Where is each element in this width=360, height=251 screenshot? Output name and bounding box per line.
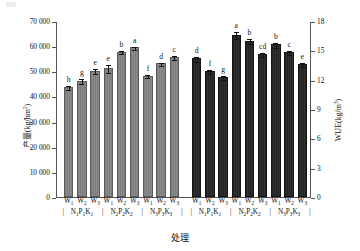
error-bar-cap bbox=[300, 67, 305, 68]
y-tick-right bbox=[311, 81, 315, 82]
x-tick-label-npk: N1P1K1 bbox=[191, 209, 229, 216]
error-bar-cap bbox=[260, 57, 265, 58]
y-tick-label-right: 0 bbox=[317, 194, 321, 201]
x-tick-label-npk: N3P3K3 bbox=[270, 209, 308, 216]
error-bar-cap bbox=[221, 76, 226, 77]
x-tick-label-w: W1 bbox=[190, 198, 204, 205]
y-tick-label-left: 70 000 bbox=[30, 18, 50, 25]
y-tick-right bbox=[311, 198, 315, 199]
error-bar-cap bbox=[234, 39, 239, 40]
significance-letter: cd bbox=[255, 43, 271, 51]
y-tick-right bbox=[311, 110, 315, 111]
y-tick-label-left: 30 000 bbox=[30, 119, 50, 126]
y-tick-left bbox=[52, 173, 56, 174]
y-tick-label-left: 0 bbox=[46, 194, 50, 201]
y-tick-label-right: 6 bbox=[317, 135, 321, 142]
x-tick-label-w: W1 bbox=[62, 198, 76, 205]
bar bbox=[117, 52, 126, 197]
significance-letter: g bbox=[215, 66, 231, 74]
error-bar-cap bbox=[159, 66, 164, 67]
significance-letter: e bbox=[294, 53, 310, 61]
bar bbox=[205, 71, 214, 197]
bar bbox=[64, 87, 73, 197]
x-tick-separator: | bbox=[102, 209, 103, 216]
bar bbox=[130, 47, 139, 197]
x-tick-label-w: W1 bbox=[229, 198, 243, 205]
significance-letter: g bbox=[74, 69, 90, 77]
y-tick-left bbox=[52, 22, 56, 23]
bar bbox=[232, 35, 241, 197]
y-tick-left bbox=[52, 123, 56, 124]
x-axis-title: 处理 bbox=[0, 231, 360, 244]
significance-letter: f bbox=[140, 65, 156, 73]
error-bar-cap bbox=[194, 57, 199, 58]
x-tick-label-npk: N1P1K1 bbox=[63, 209, 101, 216]
error-bar-cap bbox=[132, 47, 137, 48]
error-bar-cap bbox=[66, 86, 71, 87]
error-bar-cap bbox=[66, 90, 71, 91]
error-bar-cap bbox=[145, 78, 150, 79]
error-bar-cap bbox=[287, 55, 292, 56]
x-tick-label-w: W1 bbox=[141, 198, 155, 205]
y-tick-label-right: 3 bbox=[317, 165, 321, 172]
error-bar-cap bbox=[273, 48, 278, 49]
y-tick-right bbox=[311, 51, 315, 52]
significance-letter: d bbox=[153, 53, 169, 61]
bar bbox=[298, 64, 307, 197]
y-tick-left bbox=[52, 72, 56, 73]
x-tick-separator: | bbox=[309, 209, 310, 216]
y-tick-right bbox=[311, 169, 315, 170]
x-tick-separator: | bbox=[142, 209, 143, 216]
x-tick-separator: | bbox=[190, 209, 191, 216]
error-bar-cap bbox=[106, 65, 111, 66]
significance-letter: c bbox=[166, 46, 182, 54]
significance-letter: a bbox=[127, 37, 143, 45]
y-tick-label-left: 60 000 bbox=[30, 43, 50, 50]
error-bar-cap bbox=[106, 73, 111, 74]
error-bar-cap bbox=[247, 39, 252, 40]
significance-letter: b bbox=[242, 29, 258, 37]
x-tick-label-w: W2 bbox=[282, 198, 296, 205]
x-tick-label-w: W3 bbox=[128, 198, 142, 205]
bar bbox=[77, 81, 86, 197]
y-tick-left bbox=[52, 47, 56, 48]
y-tick-label-right: 15 bbox=[317, 47, 324, 54]
error-bar-cap bbox=[172, 60, 177, 61]
error-bar-cap bbox=[172, 56, 177, 57]
x-tick-separator: | bbox=[62, 209, 63, 216]
y-axis-right-title-text: WUE(kg/m3) bbox=[334, 99, 343, 142]
x-tick-label-w: W2 bbox=[154, 198, 168, 205]
x-tick-label-w: W2 bbox=[203, 198, 217, 205]
y-axis-right-title: WUE(kg/m3) bbox=[334, 99, 343, 142]
x-tick-label-w: W3 bbox=[88, 198, 102, 205]
plot-area: 010 00020 00030 00040 00050 00060 00070 … bbox=[56, 22, 311, 198]
x-tick-label-npk: N2P2K2 bbox=[103, 209, 141, 216]
bar bbox=[284, 52, 293, 197]
x-tick-separator: | bbox=[270, 209, 271, 216]
x-tick-label-npk: N2P2K2 bbox=[231, 209, 269, 216]
x-tick-label-w: W2 bbox=[243, 198, 257, 205]
error-bar-cap bbox=[93, 74, 98, 75]
error-bar-cap bbox=[145, 75, 150, 76]
y-tick-left bbox=[52, 97, 56, 98]
error-bar-cap bbox=[119, 54, 124, 55]
y-axis-left-line bbox=[56, 22, 57, 198]
x-tick-label-w: W2 bbox=[115, 198, 129, 205]
x-axis-tick-labels: W1W2W3W1W2W3W1W2W3N1P1K1N2P2K2N3P3K3||||… bbox=[56, 198, 311, 228]
error-bar-cap bbox=[79, 79, 84, 80]
bar bbox=[271, 44, 280, 197]
y-tick-label-right: 9 bbox=[317, 106, 321, 113]
error-bar-cap bbox=[221, 80, 226, 81]
error-bar-cap bbox=[300, 63, 305, 64]
chart-root: 产量(kg/hm2) WUE(kg/m3) 处理 010 00020 00030… bbox=[0, 0, 360, 251]
significance-letter: e bbox=[100, 55, 116, 63]
y-tick-label-right: 18 bbox=[317, 18, 324, 25]
y-tick-label-left: 10 000 bbox=[30, 169, 50, 176]
x-tick-label-w: W3 bbox=[256, 198, 270, 205]
significance-letter: h bbox=[61, 76, 77, 84]
y-tick-right bbox=[311, 22, 315, 23]
error-bar-cap bbox=[119, 51, 124, 52]
x-tick-label-w: W2 bbox=[75, 198, 89, 205]
bar bbox=[218, 77, 227, 197]
bar bbox=[192, 58, 201, 197]
